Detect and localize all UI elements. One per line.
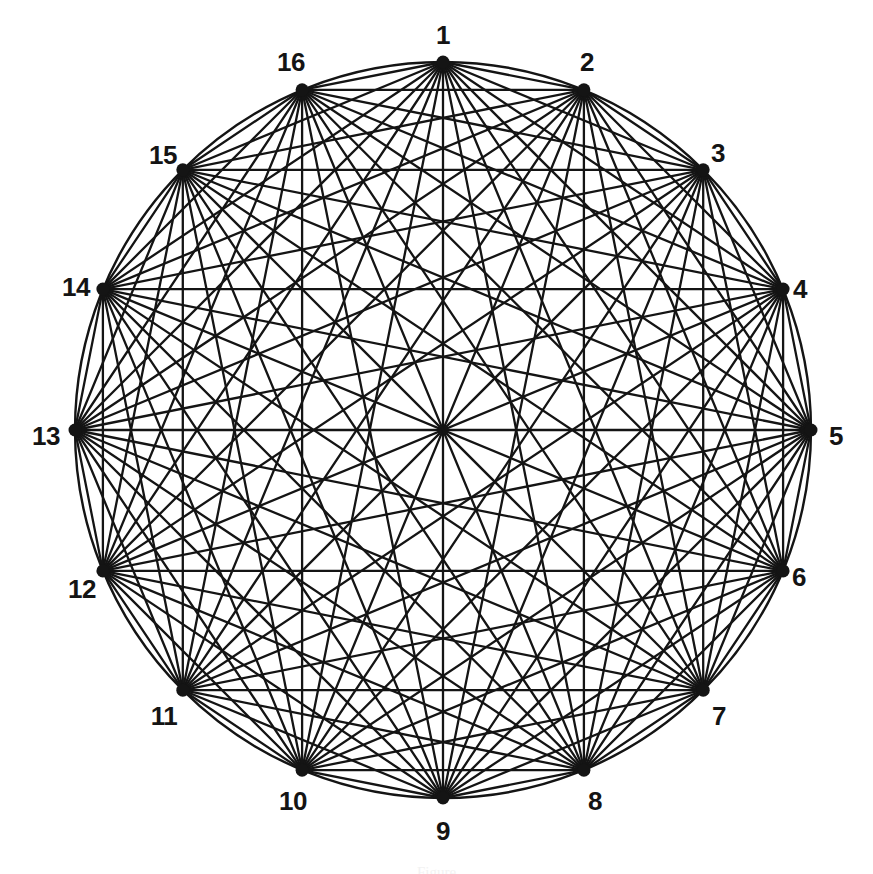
graph-vertex[interactable] — [69, 424, 82, 437]
graph-vertex[interactable] — [176, 163, 189, 176]
graph-vertex[interactable] — [777, 283, 790, 296]
vertex-label-15: 15 — [149, 142, 177, 168]
vertex-label-1: 1 — [436, 22, 450, 48]
vertex-label-7: 7 — [712, 703, 726, 729]
complete-graph-k16 — [0, 0, 873, 874]
graph-vertex[interactable] — [697, 684, 710, 697]
graph-vertex[interactable] — [96, 564, 109, 577]
graph-vertex[interactable] — [176, 684, 189, 697]
vertex-label-16: 16 — [277, 49, 305, 75]
vertex-label-12: 12 — [68, 576, 96, 602]
graph-vertex[interactable] — [577, 83, 590, 96]
vertex-label-6: 6 — [792, 564, 806, 590]
graph-vertex[interactable] — [437, 56, 450, 69]
vertex-label-9: 9 — [436, 818, 450, 844]
graph-vertex[interactable] — [437, 792, 450, 805]
vertex-label-2: 2 — [580, 49, 594, 75]
vertex-label-11: 11 — [151, 703, 178, 729]
vertex-label-8: 8 — [588, 788, 602, 814]
graph-vertex[interactable] — [777, 564, 790, 577]
graph-vertex[interactable] — [805, 424, 818, 437]
vertex-label-13: 13 — [32, 423, 60, 449]
graph-vertex[interactable] — [577, 764, 590, 777]
graph-vertex[interactable] — [697, 163, 710, 176]
vertex-label-10: 10 — [279, 788, 307, 814]
vertex-label-4: 4 — [793, 276, 807, 302]
graph-vertex[interactable] — [296, 764, 309, 777]
vertex-label-5: 5 — [829, 423, 843, 449]
figure-canvas: 12345678910111213141516 Figure — [0, 0, 873, 874]
graph-vertex[interactable] — [96, 283, 109, 296]
vertex-label-14: 14 — [62, 274, 90, 300]
graph-vertex[interactable] — [296, 83, 309, 96]
figure-caption: Figure — [0, 864, 873, 874]
vertex-label-3: 3 — [711, 140, 725, 166]
